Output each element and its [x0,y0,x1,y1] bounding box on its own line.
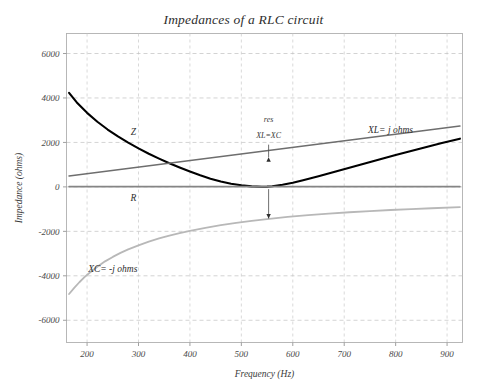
xtick-label: 800 [389,349,403,359]
x-axis-title: Frequency (Hz) [234,369,295,380]
ytick-label: -2000 [39,227,60,237]
y-axis-title: Impedance (ohms) [14,153,25,224]
series-label-xl: XL= j ohms [367,125,413,135]
ytick-label: 6000 [42,49,61,59]
ytick-label: -4000 [39,271,60,281]
series-label-xc: XC= -j ohms [87,264,137,274]
series-label-r: R [129,193,136,203]
xtick-label: 900 [440,349,454,359]
plot-canvas: 2003004005006007008009006000400020000-20… [0,0,487,392]
xtick-label: 600 [286,349,300,359]
chart-figure: Impedances of a RLC circuit 200300400500… [0,0,487,392]
xtick-label: 400 [183,349,197,359]
ytick-label: 0 [55,182,60,192]
ytick-label: -6000 [39,315,60,325]
plot-frame [67,34,463,343]
xtick-label: 500 [235,349,249,359]
series-label-z: Z [131,127,137,137]
annotation-res-line1: res [264,115,273,124]
ytick-label: 2000 [42,138,61,148]
annotation-res-line2: XL=XC [255,131,282,140]
xtick-label: 700 [337,349,351,359]
xtick-label: 200 [80,349,94,359]
ytick-label: 4000 [42,93,61,103]
xtick-label: 300 [131,349,146,359]
